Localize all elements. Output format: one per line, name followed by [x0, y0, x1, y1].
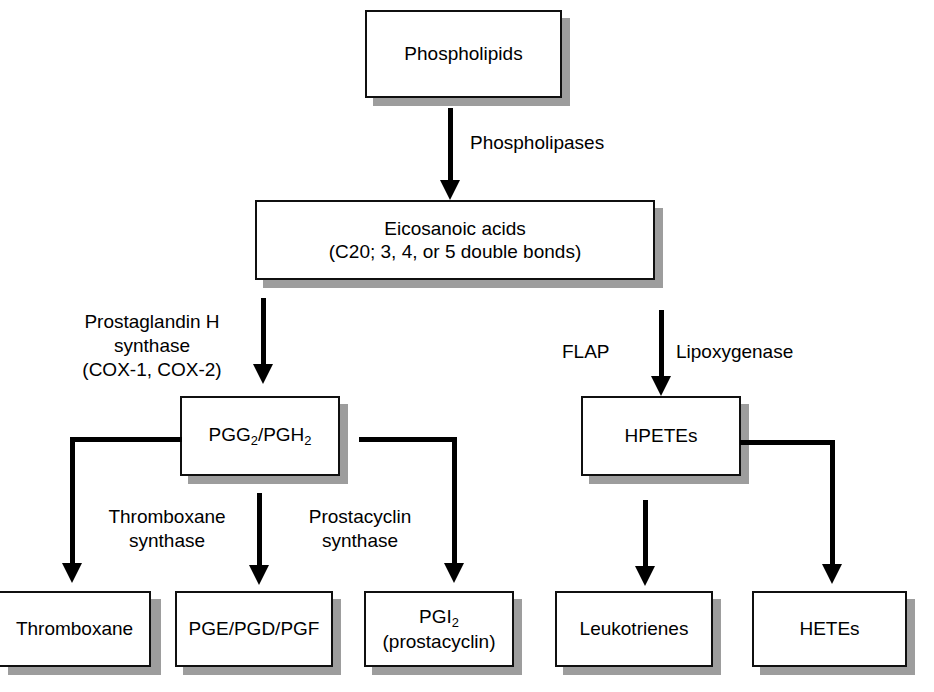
node-pge-pgd-pgf-label: PGE/PGD/PGF: [183, 617, 326, 640]
node-eicosanoic-acids-line2: (C20; 3, 4, or 5 double bonds): [329, 240, 581, 263]
arrow-phospholipids-to-eicosanoic-shaft: [448, 108, 453, 186]
arrow-phospholipids-to-eicosanoic-head: [440, 180, 460, 200]
pgi2-text: PGI: [419, 606, 452, 627]
edge-label-prostacyclin-synthase: Prostacyclin synthase: [285, 505, 435, 553]
node-eicosanoic-acids: Eicosanoic acids (C20; 3, 4, or 5 double…: [255, 200, 655, 280]
node-pgi2-line2: (prostacyclin): [383, 630, 496, 653]
connector-pgg-to-pgi2-vertical: [452, 437, 457, 569]
pgi2-subscript: 2: [452, 614, 459, 629]
pgh2-text: /PGH: [258, 424, 304, 445]
connector-pgg-to-thromboxane-horizontal: [70, 437, 182, 442]
pgh2-subscript: 2: [304, 433, 311, 448]
arrow-eicosanoic-to-hpetes-shaft: [659, 310, 664, 382]
edge-label-phospholipases: Phospholipases: [470, 131, 604, 155]
arrow-pgg-to-pge-head: [249, 565, 269, 585]
edge-label-flap: FLAP: [562, 340, 610, 364]
node-hetes-label: HETEs: [793, 617, 865, 640]
connector-pgg-to-pgi2-horizontal: [359, 437, 457, 442]
arrow-pgg-to-pge-shaft: [257, 493, 262, 571]
node-phospholipids-label: Phospholipids: [398, 42, 528, 65]
node-pgg2-pgh2: PGG2/PGH2: [180, 396, 340, 476]
node-hetes: HETEs: [752, 591, 907, 667]
node-eicosanoic-acids-line1: Eicosanoic acids: [384, 217, 526, 240]
arrow-eicosanoic-to-hpetes-head: [651, 376, 671, 396]
node-pge-pgd-pgf: PGE/PGD/PGF: [175, 591, 333, 667]
edge-label-lipoxygenase: Lipoxygenase: [676, 340, 793, 364]
node-phospholipids: Phospholipids: [365, 10, 562, 98]
node-pgg2-pgh2-label: PGG2/PGH2: [202, 423, 317, 448]
node-pgi2: PGI2 (prostacyclin): [364, 591, 514, 667]
connector-hpetes-to-hetes-head: [822, 564, 842, 584]
node-hpetes: HPETEs: [581, 396, 741, 476]
pgg2-text: PGG: [208, 424, 250, 445]
pathway-diagram: Phospholipids Phospholipases Eicosanoic …: [0, 0, 934, 692]
arrow-eicosanoic-to-pgg-head: [253, 364, 273, 384]
connector-pgg-to-thromboxane-vertical: [70, 437, 75, 569]
node-leukotrienes: Leukotrienes: [555, 591, 713, 667]
connector-pgg-to-thromboxane-head: [62, 563, 82, 583]
node-pgi2-line1: PGI2: [419, 605, 459, 630]
node-thromboxane: Thromboxane: [0, 591, 151, 667]
connector-hpetes-to-hetes-horizontal: [740, 440, 835, 445]
arrow-hpetes-to-leukotrienes-shaft: [643, 500, 648, 572]
edge-label-pgh-synthase: Prostaglandin H synthase (COX-1, COX-2): [62, 310, 242, 381]
pgg2-subscript: 2: [251, 433, 258, 448]
node-thromboxane-label: Thromboxane: [10, 617, 139, 640]
node-hpetes-label: HPETEs: [619, 424, 704, 447]
connector-pgg-to-pgi2-head: [444, 563, 464, 583]
arrow-eicosanoic-to-pgg-shaft: [261, 298, 266, 370]
node-leukotrienes-label: Leukotrienes: [574, 617, 695, 640]
edge-label-thromboxane-synthase: Thromboxane synthase: [92, 505, 242, 553]
connector-hpetes-to-hetes-vertical: [830, 440, 835, 570]
arrow-hpetes-to-leukotrienes-head: [635, 566, 655, 586]
